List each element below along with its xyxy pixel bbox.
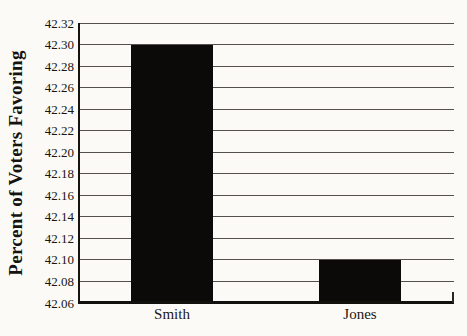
y-tick-label: 42.26	[0, 80, 74, 95]
y-tick-label: 42.32	[0, 16, 74, 31]
y-tick-label: 42.14	[0, 209, 74, 224]
y-axis-line	[78, 23, 80, 303]
x-category-label-smith: Smith	[122, 306, 222, 323]
y-tick-label: 42.28	[0, 59, 74, 74]
y-tick-label: 42.20	[0, 145, 74, 160]
gridline	[78, 23, 454, 24]
y-tick-label: 42.16	[0, 188, 74, 203]
y-tick-label: 42.30	[0, 37, 74, 52]
x-category-label-jones: Jones	[310, 306, 410, 323]
y-tick-label: 42.10	[0, 252, 74, 267]
y-tick-label: 42.18	[0, 166, 74, 181]
y-tick-label: 42.22	[0, 123, 74, 138]
x-axis-right-tick	[452, 292, 454, 303]
bar-jones	[319, 260, 401, 303]
y-tick-label: 42.12	[0, 231, 74, 246]
x-axis-line	[78, 301, 454, 304]
plot-area	[78, 23, 454, 303]
y-tick-label: 42.24	[0, 102, 74, 117]
bar-chart-figure: Percent of Voters Favoring 42.3242.3042.…	[0, 0, 467, 336]
y-tick-label: 42.08	[0, 274, 74, 289]
bar-smith	[131, 45, 213, 303]
y-tick-label: 42.06	[0, 296, 74, 311]
